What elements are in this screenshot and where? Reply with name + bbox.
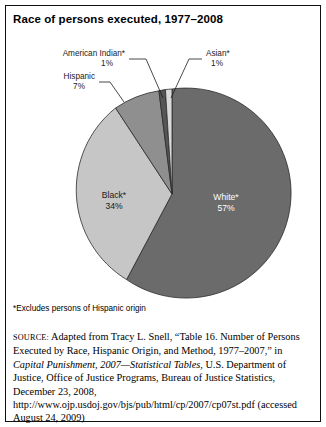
- source-note: SOURCE: Adapted from Tracy L. Snell, “Ta…: [13, 330, 313, 425]
- label-white-value: 57%: [217, 203, 235, 213]
- label-black-value: 34%: [105, 201, 123, 211]
- source-text-part1: Adapted from Tracy L. Snell, “Table 16. …: [13, 331, 300, 356]
- label-hispanic-name: Hispanic: [64, 72, 95, 81]
- label-black-name: Black*: [102, 190, 127, 200]
- pie-chart: American Indian* 1% Asian* 1% Hispanic 7…: [6, 30, 320, 315]
- leader-line-hispanic: [99, 82, 124, 102]
- label-asian-value: 1%: [211, 59, 223, 68]
- footnote: *Excludes persons of Hispanic origin: [13, 303, 303, 314]
- page-title: Race of persons executed, 1977–2008: [13, 12, 303, 26]
- label-white-name: White*: [213, 192, 239, 202]
- label-asian-name: Asian*: [206, 49, 230, 58]
- label-american-indian-value: 1%: [101, 59, 113, 68]
- source-publication-title: Capital Punishment, 2007—Statistical Tab…: [13, 359, 200, 370]
- figure-container: Race of persons executed, 1977–2008 Amer…: [0, 0, 326, 427]
- label-hispanic-value: 7%: [73, 82, 85, 91]
- source-prefix: SOURCE:: [13, 333, 49, 342]
- pie-chart-svg: American Indian* 1% Asian* 1% Hispanic 7…: [6, 30, 320, 315]
- label-american-indian-name: American Indian*: [63, 49, 126, 58]
